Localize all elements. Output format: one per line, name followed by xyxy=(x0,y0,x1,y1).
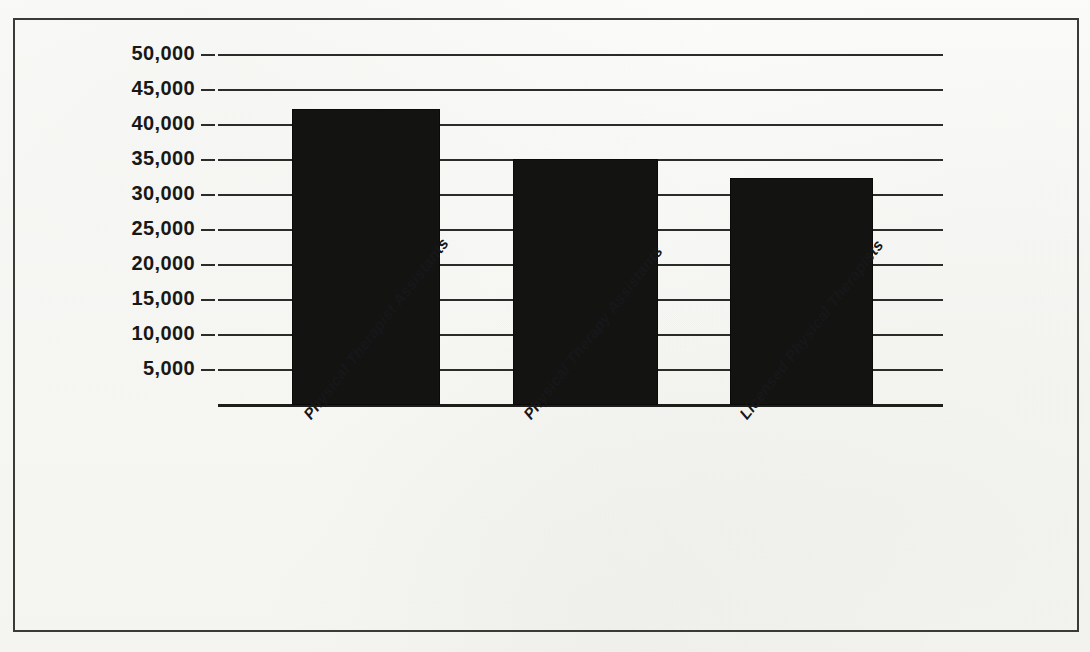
y-axis-tick-label: 15,000 xyxy=(75,287,195,310)
y-axis-tick-dash xyxy=(201,54,215,56)
y-axis-tick-dash xyxy=(201,299,215,301)
y-axis-tick-label: 40,000 xyxy=(75,112,195,135)
y-axis-tick-dash xyxy=(201,264,215,266)
bar-1 xyxy=(292,109,440,405)
y-axis-tick-dash xyxy=(201,369,215,371)
y-axis-tick-label: 20,000 xyxy=(75,252,195,275)
gridline xyxy=(218,89,943,91)
y-axis-tick-dash xyxy=(201,159,215,161)
y-axis-tick-label: 35,000 xyxy=(75,147,195,170)
y-axis-tick-label: 50,000 xyxy=(75,42,195,65)
y-axis-tick-dash xyxy=(201,124,215,126)
gridline xyxy=(218,54,943,56)
bar-chart-plot-area: 50,00045,00040,00035,00030,00025,00020,0… xyxy=(0,0,1090,652)
y-axis-tick-label: 5,000 xyxy=(75,357,195,380)
y-axis-tick-dash xyxy=(201,194,215,196)
y-axis-tick-dash xyxy=(201,334,215,336)
y-axis-tick-dash xyxy=(201,89,215,91)
y-axis-tick-label: 45,000 xyxy=(75,77,195,100)
y-axis-tick-label: 10,000 xyxy=(75,322,195,345)
y-axis-tick-label: 30,000 xyxy=(75,182,195,205)
y-axis-tick-label: 25,000 xyxy=(75,217,195,240)
y-axis-tick-dash xyxy=(201,229,215,231)
